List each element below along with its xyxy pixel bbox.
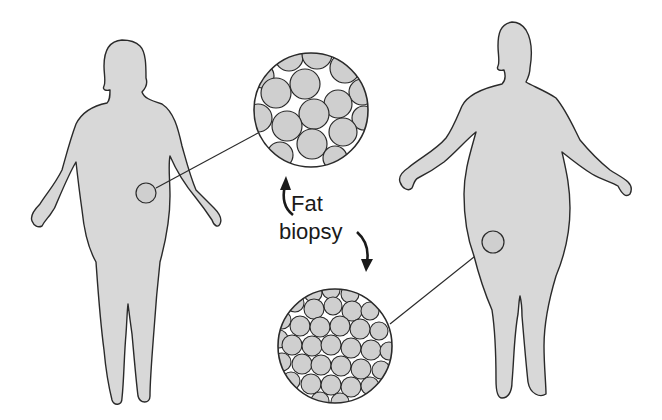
small-fat-cells-magnified-icon — [270, 281, 398, 411]
right-pointer-line — [390, 249, 484, 324]
biopsy-label: biopsy — [279, 221, 343, 243]
fat-biopsy-diagram — [0, 0, 662, 420]
right-biopsy-site-icon — [482, 231, 504, 253]
fat-label: Fat — [291, 193, 323, 215]
right-body-silhouette — [399, 22, 631, 398]
large-fat-cells-magnified-icon — [244, 39, 376, 170]
down-arrow-icon — [357, 232, 373, 272]
left-biopsy-site-icon — [136, 183, 156, 203]
left-body-silhouette — [31, 40, 220, 404]
